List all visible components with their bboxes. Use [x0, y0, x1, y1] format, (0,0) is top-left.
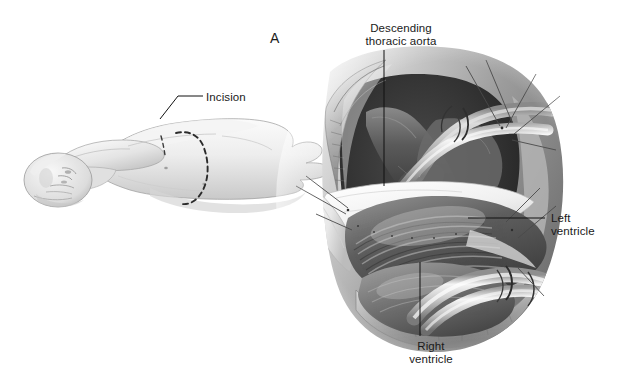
- label-left-ventricle: Left ventricle: [551, 212, 613, 238]
- thoracotomy-surgical-field: [276, 14, 612, 386]
- panel-letter-a: A: [270, 30, 279, 46]
- incision-leader-line: [160, 96, 203, 119]
- surgical-illustration-figure: A Incision Descending thoracic aorta Lef…: [0, 0, 617, 388]
- illustration-artwork: [0, 0, 617, 388]
- label-descending-thoracic-aorta: Descending thoracic aorta: [355, 22, 447, 48]
- label-incision: Incision: [206, 91, 246, 104]
- label-right-ventricle: Right ventricle: [400, 340, 462, 366]
